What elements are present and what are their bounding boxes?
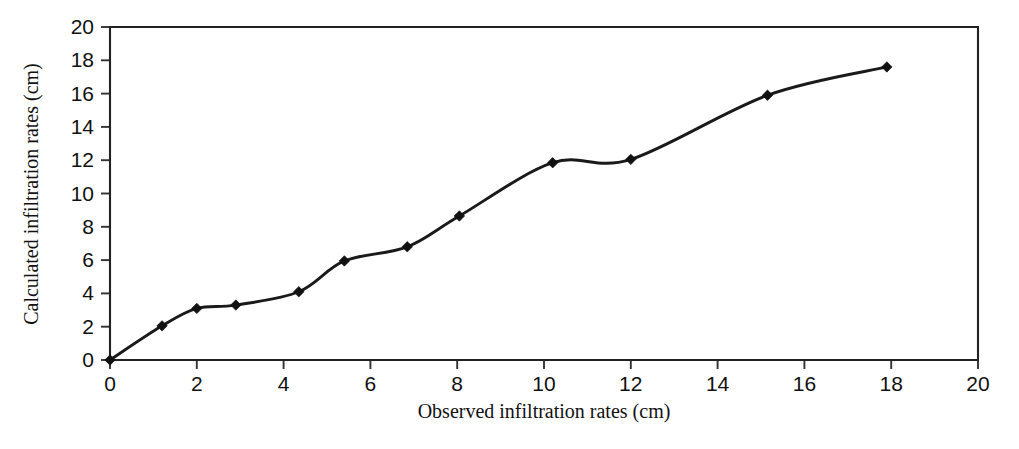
series-line-calculated-infiltration [110,67,887,360]
y-axis-tick-label: 2 [82,315,94,338]
y-axis-tick-label: 14 [71,115,95,138]
axis-frame [110,27,978,360]
x-axis-tick-label: 4 [278,372,290,395]
y-axis-tick-label: 12 [71,148,94,171]
x-axis-tick-label: 2 [191,372,203,395]
data-point-marker [626,154,636,164]
data-point-marker [402,242,412,252]
y-axis-tick-group: 02468101214161820 [71,15,110,371]
series-marker-group [105,62,892,365]
y-axis-tick-label: 10 [71,182,94,205]
x-axis-tick-group: 02468101214161820 [104,360,990,395]
y-axis-tick-label: 0 [82,348,94,371]
data-point-marker [547,157,557,167]
x-axis-tick-label: 20 [966,372,989,395]
data-point-marker [231,300,241,310]
x-axis-tick-label: 16 [793,372,816,395]
x-axis-tick-label: 12 [619,372,642,395]
infiltration-rates-chart: 02468101214161820 02468101214161820 Obse… [0,0,1019,449]
y-axis-tick-label: 4 [82,281,94,304]
data-point-marker [192,303,202,313]
x-axis-tick-label: 0 [104,372,116,395]
chart-svg: 02468101214161820 02468101214161820 Obse… [0,0,1019,449]
y-axis-tick-label: 8 [82,215,94,238]
y-axis-title: Calculated infiltration rates (cm) [20,63,43,325]
data-point-marker [339,256,349,266]
data-point-marker [294,287,304,297]
y-axis-tick-label: 20 [71,15,94,38]
x-axis-tick-label: 8 [451,372,463,395]
x-axis-tick-label: 6 [365,372,377,395]
x-axis-tick-label: 14 [706,372,730,395]
data-point-marker [762,90,772,100]
data-point-marker [882,62,892,72]
y-axis-tick-label: 18 [71,48,94,71]
y-axis-tick-label: 6 [82,248,94,271]
x-axis-title: Observed infiltration rates (cm) [418,400,671,423]
y-axis-tick-label: 16 [71,82,94,105]
x-axis-tick-label: 18 [880,372,903,395]
x-axis-tick-label: 10 [532,372,555,395]
